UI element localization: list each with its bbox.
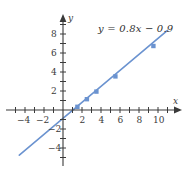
x-tick-label: 2 [80,116,86,125]
x-tick-label: 4 [99,116,105,125]
y-tick-label: 6 [51,49,57,58]
y-axis-label: y [68,14,73,23]
y-tick-label: −2 [48,125,61,134]
x-tick-label: 10 [153,116,164,125]
data-point [94,89,98,93]
data-point [113,74,117,78]
data-point [151,44,155,48]
line-graph-figure: −4 −2 2 4 6 8 10 8 6 4 2 −2 −4 x y y = 0… [0,0,194,172]
y-axis-arrow [60,14,67,22]
x-tick-label: 8 [137,116,143,125]
data-point-markers [75,44,155,109]
data-point [85,97,89,101]
y-tick-label: 4 [51,68,57,77]
y-tick-label: −4 [48,144,61,153]
data-point [75,105,79,109]
equation-annotation: y = 0.8x − 0.9 [98,24,173,34]
x-axis-arrow [174,107,182,114]
regression-line [19,30,167,155]
x-tick-label: −4 [17,116,30,125]
x-axis-label: x [173,97,178,106]
y-tick-label: 8 [51,30,57,39]
y-tick-label: 2 [51,87,57,96]
x-tick-label: 6 [118,116,124,125]
